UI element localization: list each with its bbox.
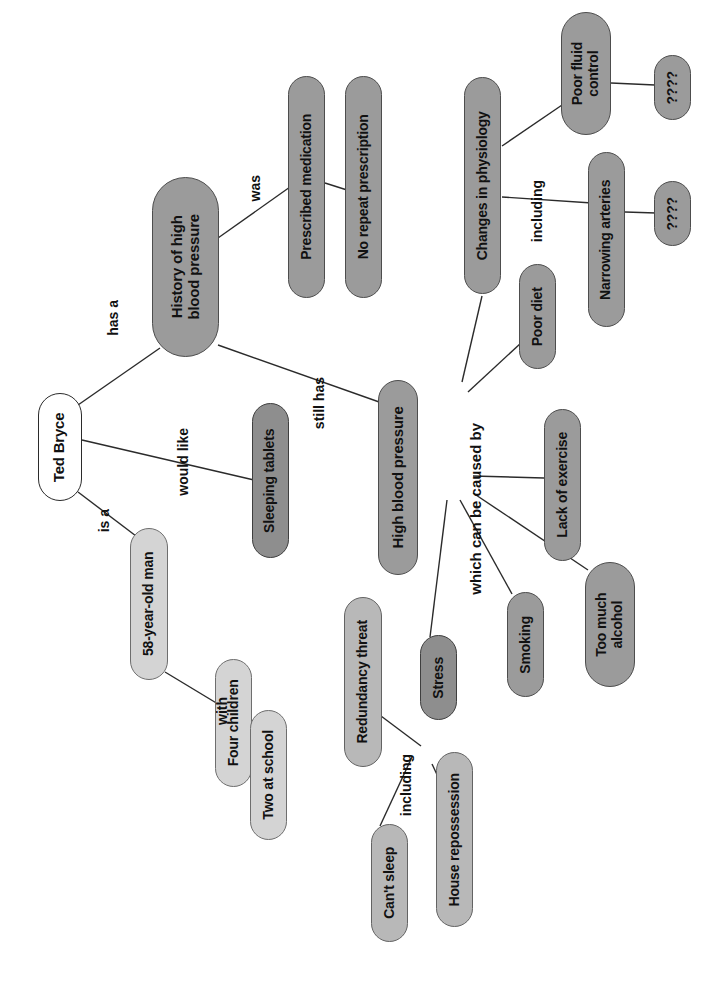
edge-changes-to-poorfluid [502,103,565,146]
edge-ted-to-history [78,348,160,405]
edge-label-has-a: has a [105,300,141,316]
node-label-houserep: House repossession [447,773,463,906]
node-q2[interactable]: ???? [654,181,691,246]
node-label-q1: ???? [665,71,681,104]
node-stress[interactable]: Stress [420,635,457,720]
node-label-man58: 58-year-old man [141,552,157,656]
node-smoking[interactable]: Smoking [507,592,544,697]
node-label-smoking: Smoking [518,616,534,674]
node-label-twoschool: Two at school [261,730,277,820]
edge-highbp-to-changes [462,296,482,382]
edge-label-text-is-a: is a [96,509,112,532]
node-q1[interactable]: ???? [654,55,691,120]
edge-poorfluid-to-q1 [611,83,655,85]
edge-man58-to-fourkids [165,672,218,704]
node-ted[interactable]: Ted Bryce [38,393,82,501]
node-twoschool[interactable]: Two at school [250,710,287,840]
edge-label-including-2: including [398,754,460,770]
node-norepeat[interactable]: No repeat prescription [345,76,382,298]
node-label-redundancy: Redundancy threat [355,620,371,743]
concept-map-canvas: Ted BryceHistory of high blood pressureP… [0,0,728,984]
edge-label-caused-by: which can be caused by [467,423,639,440]
edge-highbp-to-stress [430,500,447,637]
edge-label-text-caused-by: which can be caused by [467,423,484,595]
edge-label-text-would-like: would like [175,428,191,496]
edge-label-would-like: would like [175,428,243,444]
node-changes[interactable]: Changes in physiology [464,77,501,294]
edge-prescribed-to-norepeat [325,183,347,190]
node-highbp[interactable]: High blood pressure [378,380,418,575]
edge-label-including-1: including [529,180,591,196]
node-narrowing[interactable]: Narrowing arteries [588,152,625,327]
node-poordiet[interactable]: Poor diet [519,264,556,369]
node-cantsleep[interactable]: Can't sleep [371,824,408,942]
node-label-highbp: High blood pressure [390,406,407,548]
node-label-stress: Stress [431,657,447,699]
node-label-lackex: Lack of exercise [555,432,571,538]
node-history[interactable]: History of high blood pressure [152,177,219,357]
node-label-sleeping: Sleeping tablets [263,428,279,532]
edge-label-with: with [214,697,242,713]
node-label-history: History of high blood pressure [169,214,203,320]
node-poorfluid[interactable]: Poor fluid control [561,12,611,135]
edge-narrowing-to-q2 [625,212,656,213]
edge-label-was: was [247,175,273,191]
node-label-cantsleep: Can't sleep [382,847,398,919]
edge-label-text-including-1: including [529,180,545,242]
edge-label-is-a: is a [96,509,119,525]
node-prescribed[interactable]: Prescribed medication [288,76,325,298]
node-sleeping[interactable]: Sleeping tablets [252,403,289,558]
node-houserep[interactable]: House repossession [436,752,473,927]
edge-highbp-to-poordiet [468,343,521,392]
edge-label-text-was: was [247,175,263,201]
edge-label-still-has: still has [311,377,363,393]
node-redundancy[interactable]: Redundancy threat [344,597,382,767]
node-label-poorfluid: Poor fluid control [570,42,601,105]
edge-history-to-highbp [218,345,382,403]
edge-changes-to-narrowing [502,197,592,203]
node-man58[interactable]: 58-year-old man [130,528,168,680]
node-label-prescribed: Prescribed medication [299,114,315,260]
node-label-changes: Changes in physiology [475,111,491,260]
edge-label-text-with: with [214,697,230,725]
node-label-poordiet: Poor diet [530,287,546,346]
edge-stress-to-redundancy [381,716,421,746]
node-label-toomuch: Too much alcohol [594,592,625,656]
edge-label-text-including-2: including [398,754,414,816]
edge-label-text-has-a: has a [105,300,121,336]
edge-label-text-still-has: still has [311,377,327,429]
node-label-q2: ???? [665,197,681,230]
node-toomuch[interactable]: Too much alcohol [585,562,635,687]
edge-ted-to-sleeping [82,440,254,480]
node-label-norepeat: No repeat prescription [356,115,372,260]
node-label-ted: Ted Bryce [52,412,69,482]
node-label-narrowing: Narrowing arteries [599,179,615,299]
